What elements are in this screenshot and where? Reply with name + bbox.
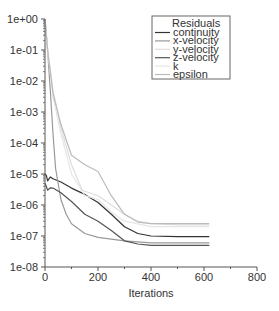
chart-background [0,0,279,311]
y-tick-label: 1e-04 [10,137,38,149]
x-tick-label: 400 [142,271,160,283]
y-tick-label: 1e-03 [10,106,38,118]
legend-label-z-velocity: z-velocity [173,51,219,63]
x-tick-label: 600 [195,271,213,283]
x-tick-label: 800 [248,271,266,283]
y-tick-label: 1e+00 [7,13,38,25]
y-tick-label: 1e-06 [10,199,38,211]
legend: Residuals continuityx-velocityy-velocity… [152,16,230,80]
y-tick-label: 1e-05 [10,168,38,180]
y-tick-label: 1e-01 [10,44,38,56]
residuals-chart: 1e+001e-011e-021e-031e-041e-051e-061e-07… [0,0,279,311]
x-axis-title: Iterations [128,287,174,299]
legend-label-epsilon: epsilon [173,68,208,80]
y-tick-label: 1e-07 [10,230,38,242]
y-tick-label: 1e-08 [10,261,38,273]
y-tick-label: 1e-02 [10,75,38,87]
x-tick-label: 0 [42,271,48,283]
x-tick-label: 200 [89,271,107,283]
